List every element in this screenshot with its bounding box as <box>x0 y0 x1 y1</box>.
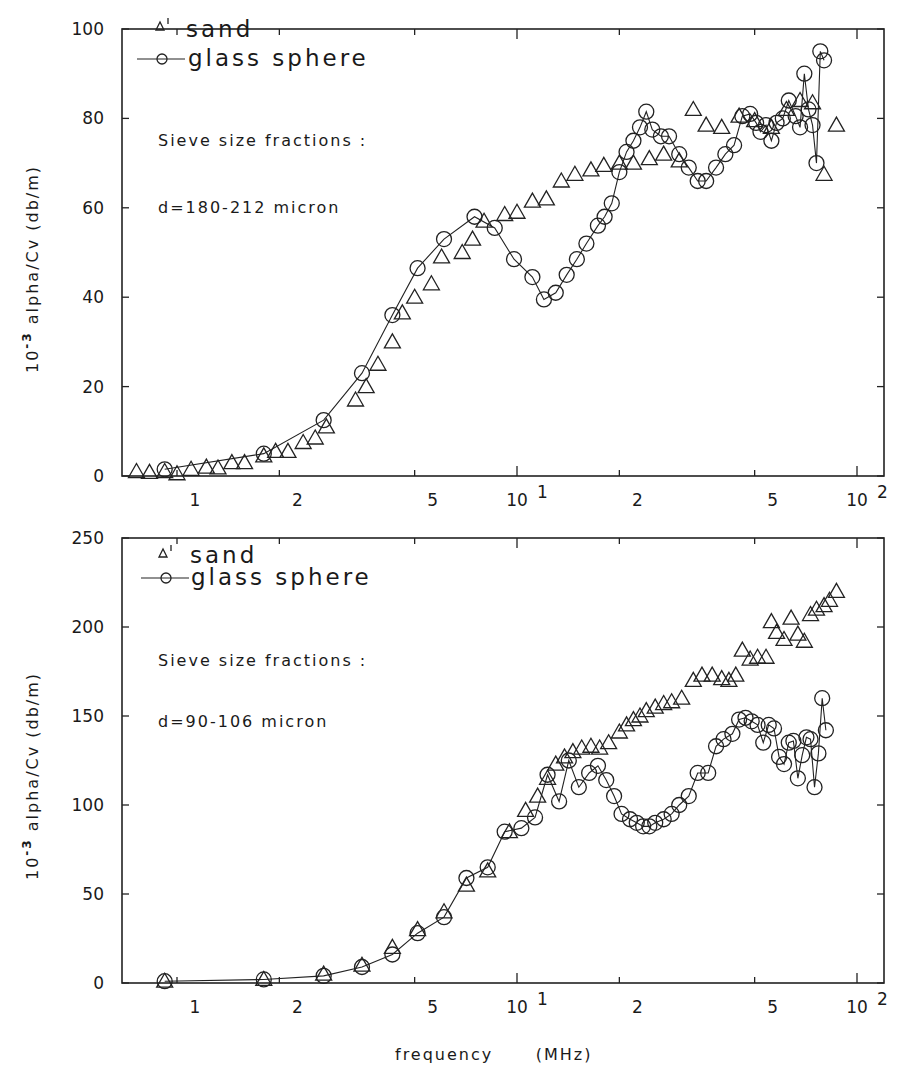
data-point-triangle <box>685 672 701 686</box>
x-tick-label: 5 <box>427 490 438 510</box>
series-line <box>165 698 826 981</box>
svg-text:10-3 alpha/Cv (db/m): 10-3 alpha/Cv (db/m) <box>20 672 42 880</box>
data-point-triangle <box>567 166 583 180</box>
x-tick-label: 10 <box>506 490 528 510</box>
triangle-marker-icon <box>159 549 167 557</box>
data-point-triangle <box>816 166 832 180</box>
annotation-sieve-title: Sieve size fractions : <box>158 651 367 670</box>
x-tick-label: 2 <box>292 490 303 510</box>
y-tick-labels-bottom: 050100150200250 <box>72 528 104 993</box>
data-point-triangle <box>641 151 657 165</box>
x-tick-label: 5 <box>767 997 778 1017</box>
ticks-top <box>122 29 884 476</box>
data-point-triangle <box>370 356 386 370</box>
annotation-sieve-size: d=90-106 micron <box>158 712 328 731</box>
data-point-triangle <box>714 119 730 133</box>
y-tick-label: 250 <box>72 528 104 548</box>
data-point-triangle <box>465 231 481 245</box>
data-point-triangle <box>698 117 714 131</box>
figure: 020406080100 12510125102 sand glass sphe… <box>0 0 922 1078</box>
x-tick-exponent: 1 <box>537 482 548 502</box>
data-point-triangle <box>384 334 400 348</box>
data-point-triangle <box>434 249 450 263</box>
series-glass-sphere-top <box>157 44 831 477</box>
y-tick-label: 40 <box>82 287 104 307</box>
x-tick-label: 10 <box>846 490 868 510</box>
data-point-triangle <box>436 904 452 918</box>
y-tick-label: 60 <box>82 198 104 218</box>
y-tick-labels-top: 020406080100 <box>72 19 104 486</box>
legend-top: sand glass sphere <box>137 16 369 71</box>
y-tick-label: 20 <box>82 377 104 397</box>
data-point-triangle <box>518 802 534 816</box>
x-tick-labels-bottom: 12510125102 <box>190 989 888 1017</box>
svg-text:10-3 alpha/Cv (db/m): 10-3 alpha/Cv (db/m) <box>20 165 42 373</box>
x-tick-exponent: 2 <box>877 989 888 1009</box>
x-axis-label: frequency (MHz) <box>395 1045 592 1064</box>
x-tick-label: 2 <box>292 997 303 1017</box>
x-tick-label: 5 <box>767 490 778 510</box>
data-point-triangle <box>407 289 423 303</box>
x-tick-label: 2 <box>632 997 643 1017</box>
y-tick-label: 150 <box>72 706 104 726</box>
legend-label-glass-sphere: glass sphere <box>191 564 372 590</box>
series-sand-top <box>128 93 844 480</box>
data-point-triangle <box>790 626 806 640</box>
data-point-triangle <box>348 392 364 406</box>
x-tick-label: 2 <box>632 490 643 510</box>
data-point-triangle <box>538 191 554 205</box>
data-point-triangle <box>769 624 785 638</box>
plot-frame-top <box>122 29 884 476</box>
y-tick-label: 0 <box>93 973 104 993</box>
x-tick-labels-top: 12510125102 <box>190 482 888 510</box>
data-point-triangle <box>625 155 641 169</box>
y-tick-label: 80 <box>82 108 104 128</box>
data-point-triangle <box>318 419 334 433</box>
series-sand-bottom <box>157 583 845 987</box>
y-tick-label: 0 <box>93 466 104 486</box>
data-point-triangle <box>656 146 672 160</box>
x-tick-label: 10 <box>506 997 528 1017</box>
x-tick-exponent: 2 <box>877 482 888 502</box>
annotation-sieve-title: Sieve size fractions : <box>158 131 367 150</box>
y-tick-label: 100 <box>72 795 104 815</box>
legend-label-sand: sand <box>186 16 253 42</box>
figure-canvas: 020406080100 12510125102 sand glass sphe… <box>0 0 922 1078</box>
x-tick-label: 1 <box>190 997 201 1017</box>
panel-top: 020406080100 12510125102 sand glass sphe… <box>72 16 888 510</box>
y-tick-label: 100 <box>72 19 104 39</box>
y-axis-label-top: 10-3 alpha/Cv (db/m) <box>20 165 42 373</box>
data-point-triangle <box>685 101 701 115</box>
x-tick-label: 1 <box>190 490 201 510</box>
data-point-triangle <box>632 708 648 722</box>
data-point-triangle <box>458 877 474 891</box>
x-tick-label: 10 <box>846 997 868 1017</box>
data-point-triangle <box>183 461 199 475</box>
y-axis-label-bottom: 10-3 alpha/Cv (db/m) <box>20 672 42 880</box>
annotation-sieve-size: d=180-212 micron <box>158 198 340 217</box>
data-point-triangle <box>307 430 323 444</box>
y-tick-label: 50 <box>82 884 104 904</box>
x-tick-label: 5 <box>427 997 438 1017</box>
data-point-triangle <box>750 649 766 663</box>
plot-frame-bottom <box>122 538 884 983</box>
data-point-triangle <box>596 157 612 171</box>
legend-label-glass-sphere: glass sphere <box>188 45 369 71</box>
series-line <box>165 51 824 469</box>
data-point-triangle <box>783 610 799 624</box>
panel-bottom: 050100150200250 12510125102 sand glass s… <box>72 528 888 1017</box>
series-glass-sphere-bottom <box>157 691 833 989</box>
ticks-bottom <box>122 538 884 983</box>
data-point-triangle <box>803 607 819 621</box>
y-tick-label: 200 <box>72 617 104 637</box>
data-point-triangle <box>423 276 439 290</box>
data-point-triangle <box>454 245 470 259</box>
data-point-triangle <box>758 649 774 663</box>
legend-bottom: sand glass sphere <box>141 542 372 590</box>
data-point-triangle <box>509 204 525 218</box>
x-tick-exponent: 1 <box>537 989 548 1009</box>
data-point-triangle <box>828 117 844 131</box>
